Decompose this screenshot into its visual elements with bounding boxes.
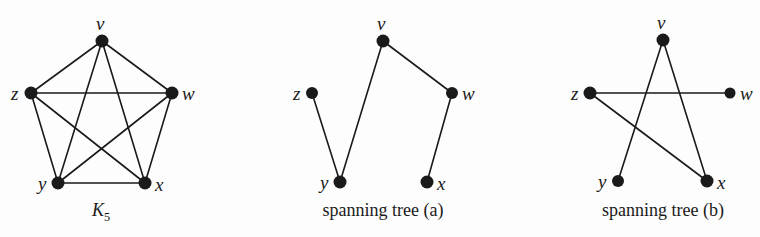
vertex-label-z: z: [571, 84, 578, 103]
vertex-label-w: w: [740, 84, 753, 103]
vertex-label-x: x: [717, 173, 725, 192]
figure-root: v z w y x K5 v z w y x spanning tree (a)…: [0, 0, 760, 237]
vertex-label-y: y: [598, 172, 606, 191]
graph-vertex-x: [701, 175, 714, 188]
graph-vertex-v: [657, 34, 670, 47]
edge-group: [590, 40, 730, 181]
graph-edge-z-x: [590, 93, 707, 181]
graph-vertex-w: [725, 88, 736, 99]
graph-vertex-z: [584, 87, 597, 100]
caption-spanning-tree-b: spanning tree (b): [563, 201, 760, 219]
graph-vertex-y: [612, 175, 624, 187]
graph-edge-v-y: [618, 40, 663, 181]
vertex-group: [584, 34, 736, 188]
vertex-label-v: v: [657, 13, 665, 32]
graph-edge-v-x: [663, 40, 707, 181]
